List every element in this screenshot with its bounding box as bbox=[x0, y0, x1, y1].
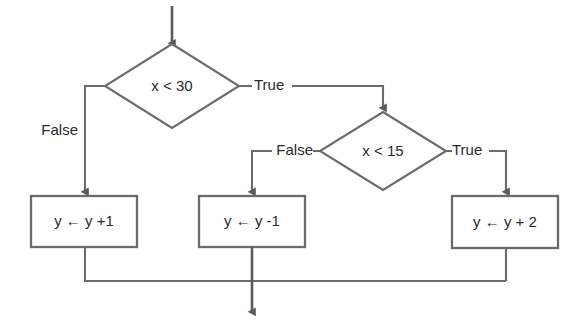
edge-false-inner-line bbox=[252, 151, 272, 192]
edge-true-outer-line bbox=[292, 86, 383, 108]
decision-x-lt-15-label: x < 15 bbox=[362, 142, 403, 159]
edge-false-outer-line bbox=[85, 86, 105, 192]
label-false-outer: False bbox=[41, 121, 78, 138]
edge-false-inner: False bbox=[252, 141, 320, 192]
process-y-minus-1-label: y ← y -1 bbox=[224, 212, 280, 229]
merge-bar-path bbox=[85, 247, 506, 281]
edge-false-outer: False bbox=[41, 86, 105, 192]
decision-x-lt-30[interactable]: x < 30 bbox=[105, 44, 239, 128]
process-y-plus-1[interactable]: y ← y +1 bbox=[31, 196, 137, 247]
flowchart-svg: x < 30 False True x < 15 False Tru bbox=[0, 0, 588, 325]
flowchart-canvas: x < 30 False True x < 15 False Tru bbox=[0, 0, 588, 325]
label-true-outer: True bbox=[254, 76, 284, 93]
decision-x-lt-15[interactable]: x < 15 bbox=[320, 112, 446, 190]
process-y-plus-1-label: y ← y +1 bbox=[54, 212, 114, 229]
label-true-inner: True bbox=[452, 141, 482, 158]
process-y-plus-2-label: y ← y + 2 bbox=[473, 213, 537, 230]
label-false-inner: False bbox=[276, 141, 313, 158]
process-y-minus-1[interactable]: y ← y -1 bbox=[199, 196, 305, 247]
edge-true-outer: True bbox=[239, 76, 383, 108]
decision-x-lt-30-label: x < 30 bbox=[151, 77, 192, 94]
edge-true-inner: True bbox=[446, 141, 506, 192]
edge-true-inner-line bbox=[489, 151, 506, 192]
process-y-plus-2[interactable]: y ← y + 2 bbox=[452, 196, 558, 248]
